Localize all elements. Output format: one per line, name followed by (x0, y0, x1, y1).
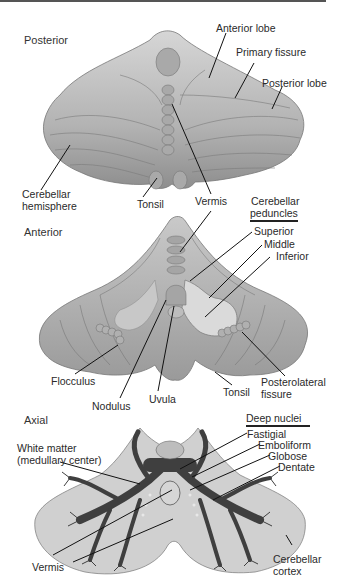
view-label-posterior: Posterior (24, 34, 68, 46)
label-cerebellar-hemisphere-line2: hemisphere (22, 200, 77, 212)
header-cerebellar-peduncles-line1: Cerebellar (251, 195, 299, 207)
label-tonsil-anterior: Tonsil (223, 386, 250, 398)
label-dentate: Dentate (278, 461, 315, 473)
label-superior-peduncle: Superior (254, 225, 294, 237)
header-deep-nuclei: Deep nuclei (246, 412, 310, 427)
label-primary-fissure: Primary fissure (236, 46, 306, 58)
label-cerebellar-cortex-line2: cortex (273, 565, 302, 577)
label-inferior-peduncle: Inferior (276, 250, 309, 262)
label-tonsil-posterior: Tonsil (137, 198, 164, 210)
view-label-anterior: Anterior (24, 226, 63, 238)
label-uvula: Uvula (149, 393, 176, 405)
label-nodulus: Nodulus (92, 400, 131, 412)
label-cerebellar-hemisphere-line1: Cerebellar (22, 188, 70, 200)
label-posterolateral-fissure-line2: fissure (261, 388, 292, 400)
label-posterior-lobe: Posterior lobe (262, 77, 327, 89)
label-middle-peduncle: Middle (264, 238, 295, 250)
label-posterolateral-fissure-line1: Posterolateral (261, 376, 326, 388)
label-white-matter-line1: White matter (17, 442, 77, 454)
label-flocculus: Flocculus (51, 375, 95, 387)
label-cerebellar-cortex-line1: Cerebellar (273, 553, 321, 565)
label-vermis-posterior: Vermis (195, 195, 227, 207)
view-label-axial: Axial (24, 414, 48, 426)
header-cerebellar-peduncles-line2: peduncles (250, 207, 298, 222)
label-anterior-lobe: Anterior lobe (216, 22, 276, 34)
label-white-matter-line2: (medullary center) (17, 454, 102, 466)
label-vermis-axial: Vermis (32, 561, 64, 573)
